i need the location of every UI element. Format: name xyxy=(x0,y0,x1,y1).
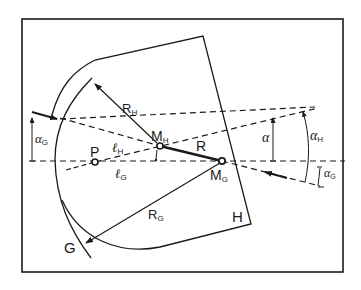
label-l-h: ℓH xyxy=(112,140,123,156)
angle-alpha-h-arc xyxy=(303,112,309,182)
label-alpha-h: αH xyxy=(310,128,323,144)
incoming-force-arrow-right xyxy=(265,172,287,178)
radius-r-g-arrow xyxy=(86,163,220,243)
label-l-g: ℓG xyxy=(115,166,127,182)
diagram-canvas: RH MH R MG P ℓH ℓG RG G H α αH αG αG xyxy=(0,0,361,290)
segment-r xyxy=(160,146,222,161)
diagram-frame xyxy=(22,19,343,272)
incoming-force-arrow-left xyxy=(32,112,57,119)
label-g: G xyxy=(64,239,76,256)
label-r-g: RG xyxy=(148,207,164,223)
label-alpha-g-right: αG xyxy=(324,166,336,180)
label-h: H xyxy=(232,208,243,225)
label-r-h: RH xyxy=(122,101,137,117)
label-p: P xyxy=(90,144,99,160)
label-alpha: α xyxy=(262,130,270,145)
label-r: R xyxy=(196,138,206,154)
tick-m-h xyxy=(156,150,157,159)
label-m-h: MH xyxy=(151,128,169,145)
label-m-g: MG xyxy=(210,167,228,184)
line-alpha-h-dashed xyxy=(60,107,315,119)
angle-alpha-g-right-arc xyxy=(318,168,320,186)
line-alpha-g-dashed xyxy=(66,162,95,170)
label-alpha-g-left: αG xyxy=(35,131,48,147)
point-m-g xyxy=(219,158,225,164)
